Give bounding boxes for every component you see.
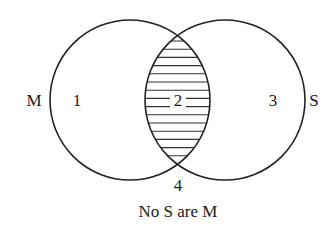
region-label-3: 3 [269, 91, 278, 110]
diagram-caption: No S are M [139, 202, 218, 221]
set-label-s: S [309, 91, 318, 110]
venn-diagram: M S 1 2 3 4 No S are M [0, 0, 336, 230]
set-label-m: M [26, 91, 41, 110]
region-label-2: 2 [174, 91, 183, 110]
region-label-4: 4 [174, 176, 183, 195]
region-label-1: 1 [73, 91, 82, 110]
